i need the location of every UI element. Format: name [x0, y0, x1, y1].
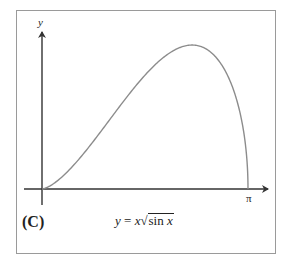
equation-caption: y = x√sin x — [115, 213, 174, 229]
panel-label: (C) — [22, 213, 44, 231]
y-axis-label: y — [38, 16, 43, 28]
sqrt-expression: √sin x — [140, 213, 173, 229]
eq-equals: = — [121, 213, 135, 228]
radicand: sin x — [148, 213, 174, 228]
x-axis-pi-label: π — [246, 192, 252, 204]
eq-sin: sin — [149, 213, 164, 228]
function-curve — [42, 45, 248, 189]
eq-var: x — [167, 213, 173, 228]
radical-sign-icon: √ — [140, 213, 147, 228]
